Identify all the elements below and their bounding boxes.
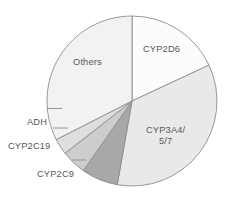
slice-label-cyp2d6: CYP2D6	[143, 44, 180, 55]
pie-chart-svg	[0, 0, 228, 204]
slice-label-adh: ADH	[27, 117, 47, 128]
slice-label-cyp2c9: CYP2C9	[37, 169, 74, 180]
slice-label-cyp3a4-line2: 5/7	[159, 136, 172, 146]
slice-label-others: Others	[73, 57, 102, 68]
slice-label-cyp3a4-line1: CYP3A4/	[146, 125, 185, 135]
pie-slices-group	[47, 16, 217, 186]
slice-label-cyp3a4: CYP3A4/5/7	[146, 125, 185, 147]
slice-label-cyp2c19: CYP2C19	[8, 141, 50, 152]
pie-chart: CYP2D6 CYP3A4/5/7 Others ADH CYP2C19 CYP…	[0, 0, 228, 204]
